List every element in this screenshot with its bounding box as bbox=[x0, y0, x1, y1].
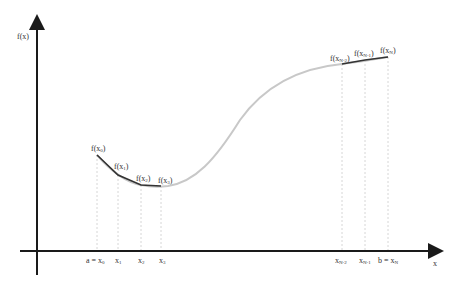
svg-text:x3: x3 bbox=[159, 256, 166, 265]
function-curve bbox=[97, 57, 388, 187]
guide-lines bbox=[97, 57, 388, 251]
x-axis-label: x bbox=[433, 259, 437, 268]
svg-text:xN-1: xN-1 bbox=[359, 256, 371, 265]
svg-text:a = x0: a = x0 bbox=[86, 256, 105, 265]
svg-text:f(x2): f(x2) bbox=[136, 174, 151, 183]
svg-text:f(xN): f(xN) bbox=[380, 46, 396, 55]
svg-text:f(x3): f(x3) bbox=[158, 176, 173, 185]
svg-text:f(x0): f(x0) bbox=[91, 144, 106, 153]
y-axis-label: f(x) bbox=[17, 32, 29, 41]
trapezoid-segments bbox=[97, 57, 388, 186]
svg-text:b = xN: b = xN bbox=[378, 256, 399, 265]
svg-text:f(xN-1): f(xN-1) bbox=[354, 49, 374, 58]
svg-text:f(x1): f(x1) bbox=[114, 162, 129, 171]
x-tick-labels: a = x0 x1 x2 x3 xN-2 xN-1 b = xN bbox=[86, 256, 399, 265]
svg-text:f(xN-2): f(xN-2) bbox=[330, 54, 350, 63]
svg-text:x2: x2 bbox=[138, 256, 145, 265]
svg-text:xN-2: xN-2 bbox=[335, 256, 347, 265]
svg-text:x1: x1 bbox=[115, 256, 122, 265]
trapezoid-diagram: f(x) x a = x0 x1 x2 x3 xN-2 xN-1 b = xN … bbox=[0, 0, 453, 286]
